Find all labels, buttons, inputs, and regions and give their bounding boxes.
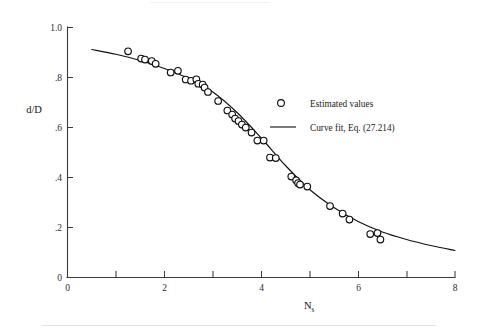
x-axis-tick-labels: 0 2 4 6 8 xyxy=(65,283,458,293)
y-axis-ticks xyxy=(68,28,74,228)
x-axis-title: Ns xyxy=(304,300,315,314)
y-tick-label: .4 xyxy=(55,173,62,183)
data-point xyxy=(167,69,174,76)
data-point xyxy=(242,124,249,131)
x-tick-label: 2 xyxy=(162,283,167,293)
y-tick-label: 0 xyxy=(57,273,62,283)
data-point xyxy=(248,129,255,136)
chart-canvas: 1.0 .8 .6 .4 .2 0 0 2 4 6 8 d/ xyxy=(0,0,478,330)
data-point xyxy=(152,60,159,67)
data-point xyxy=(272,155,279,162)
y-tick-label: .6 xyxy=(55,123,62,133)
y-tick-label: 1.0 xyxy=(50,23,62,33)
legend-label-estimated-values: Estimated values xyxy=(310,99,374,109)
figure-root: 1.0 .8 .6 .4 .2 0 0 2 4 6 8 d/ xyxy=(0,0,478,330)
data-point xyxy=(254,137,261,144)
axes-group xyxy=(67,27,455,278)
data-point xyxy=(327,203,334,210)
legend-marker-open-circle xyxy=(278,100,285,107)
data-point xyxy=(374,230,381,237)
legend-label-curve-fit: Curve fit, Eq. (27.214) xyxy=(310,123,395,134)
scan-artifact-bottom xyxy=(42,325,436,326)
data-point xyxy=(260,137,267,144)
data-point xyxy=(142,56,149,63)
estimated-values-scatter xyxy=(125,48,384,243)
data-point xyxy=(346,216,353,223)
legend: Estimated values Curve fit, Eq. (27.214) xyxy=(270,99,395,134)
y-axis-title: d/D xyxy=(26,104,42,115)
x-tick-label: 0 xyxy=(65,283,70,293)
data-point xyxy=(205,89,212,96)
y-axis-tick-labels: 1.0 .8 .6 .4 .2 0 xyxy=(50,23,62,283)
x-tick-label: 8 xyxy=(453,283,458,293)
data-point xyxy=(125,48,132,55)
scan-artifact-top xyxy=(150,2,270,3)
data-point xyxy=(339,210,346,217)
x-tick-label: 6 xyxy=(356,283,361,293)
curve-fit-line xyxy=(92,50,455,251)
x-tick-label: 4 xyxy=(259,283,264,293)
data-point xyxy=(304,183,311,190)
data-point xyxy=(215,98,222,105)
data-point xyxy=(367,231,374,238)
y-tick-label: .8 xyxy=(55,73,62,83)
data-point xyxy=(297,181,304,188)
x-axis-ticks xyxy=(68,271,456,278)
data-point xyxy=(377,236,384,243)
x-axis-title-subscript: s xyxy=(312,306,315,314)
y-tick-label: .2 xyxy=(55,223,62,233)
data-point xyxy=(175,67,182,74)
